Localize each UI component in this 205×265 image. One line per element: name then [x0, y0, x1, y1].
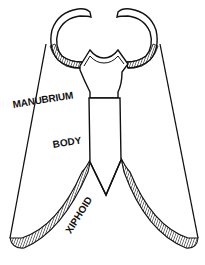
sternum-body	[89, 98, 121, 195]
sternum-diagram	[0, 0, 205, 265]
right-rib-flap	[121, 44, 198, 248]
manubrium	[80, 50, 128, 98]
